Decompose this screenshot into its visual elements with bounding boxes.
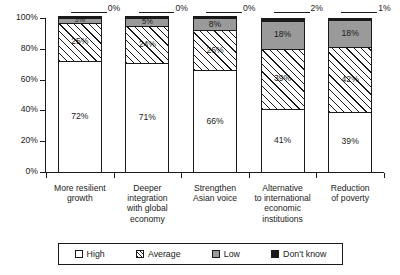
legend-item[interactable]: Average — [136, 249, 181, 259]
legend-item[interactable]: Low — [212, 249, 240, 259]
x-axis-separator-tick — [181, 173, 182, 178]
category-label-line: economic — [243, 203, 323, 213]
bar-segment-don-t-know[interactable] — [328, 18, 372, 20]
y-axis-tick-label: 20% — [0, 136, 38, 145]
bar-segment-low[interactable] — [125, 18, 169, 26]
dont-know-callout-leader-line — [206, 12, 242, 13]
bar-segment-high[interactable] — [328, 112, 372, 172]
black-square-icon — [271, 250, 279, 258]
x-axis-separator-tick — [114, 173, 115, 178]
white-square-icon — [75, 250, 83, 258]
y-axis-tick-label: 80% — [0, 44, 38, 53]
legend-item-label: High — [87, 249, 105, 259]
dont-know-callout-leader-line — [341, 12, 377, 13]
bar-segment-high[interactable] — [193, 70, 237, 172]
legend-item[interactable]: High — [75, 249, 105, 259]
y-axis-tick — [40, 49, 45, 50]
category-label-line: with global — [107, 203, 187, 213]
x-axis-separator-tick — [316, 173, 317, 178]
bar-stack: 72%25%3% — [58, 18, 102, 172]
y-axis-tick-label: 0% — [0, 167, 38, 176]
bar-stack: 41%39%18% — [261, 18, 305, 172]
bar-segment-don-t-know[interactable] — [125, 16, 169, 18]
y-axis-tick-label: 60% — [0, 75, 38, 84]
category-label: Reductionof poverty — [310, 183, 390, 203]
bar-segment-low[interactable] — [58, 18, 102, 23]
legend-item-label: Low — [224, 249, 240, 259]
bar-segment-average[interactable] — [328, 47, 372, 112]
legend-item[interactable]: Don't know — [271, 249, 326, 259]
bar-segment-high[interactable] — [58, 61, 102, 172]
bar-stack: 66%26%8% — [193, 18, 237, 172]
y-axis-tick — [40, 141, 45, 142]
y-axis-tick-label: 40% — [0, 105, 38, 114]
bar-segment-high[interactable] — [125, 63, 169, 172]
bar-segment-average[interactable] — [193, 30, 237, 70]
legend-item-label: Average — [148, 249, 181, 259]
bar-stack: 71%24%5% — [125, 18, 169, 172]
gray-square-icon — [212, 250, 220, 258]
hatched-square-icon — [136, 250, 144, 258]
bar-segment-low[interactable] — [193, 18, 237, 30]
y-axis-tick — [40, 80, 45, 81]
bar-segment-low[interactable] — [261, 21, 305, 49]
category-label-line: of poverty — [310, 193, 390, 203]
dont-know-callout-leader-line — [274, 12, 310, 13]
bar-stack: 39%42%18% — [328, 18, 372, 172]
bar-segment-don-t-know[interactable] — [58, 16, 102, 18]
bar-segment-don-t-know[interactable] — [193, 16, 237, 18]
bar-segment-average[interactable] — [261, 49, 305, 109]
stacked-bar-chart: 0%20%40%60%80%100% 72%25%3%0%71%24%5%0%6… — [0, 0, 400, 275]
y-axis-tick — [40, 110, 45, 111]
chart-legend: HighAverageLowDon't know — [58, 243, 343, 265]
category-label-line: institutions — [243, 214, 323, 224]
dont-know-callout-leader-line — [139, 12, 175, 13]
legend-item-label: Don't know — [283, 249, 326, 259]
dont-know-callout-leader-line — [71, 12, 107, 13]
dont-know-callout-label: 0% — [108, 4, 120, 13]
category-label-line: economy — [107, 214, 187, 224]
x-axis-separator-tick — [384, 173, 385, 178]
x-axis-line — [45, 172, 384, 173]
y-axis-tick — [40, 18, 45, 19]
dont-know-callout-label: 0% — [175, 4, 187, 13]
bar-segment-low[interactable] — [328, 20, 372, 48]
x-axis-separator-tick — [249, 173, 250, 178]
x-axis-separator-tick — [46, 173, 47, 178]
category-label-line: Reduction — [310, 183, 390, 193]
bar-segment-high[interactable] — [261, 109, 305, 172]
dont-know-callout-label: 2% — [311, 4, 323, 13]
dont-know-callout-label: 1% — [378, 4, 390, 13]
plot-area: 72%25%3%0%71%24%5%0%66%26%8%0%41%39%18%2… — [46, 18, 384, 172]
y-axis-tick-label: 100% — [0, 13, 38, 22]
bar-segment-average[interactable] — [125, 26, 169, 63]
bar-segment-don-t-know[interactable] — [261, 18, 305, 21]
bar-segment-average[interactable] — [58, 23, 102, 62]
dont-know-callout-label: 0% — [243, 4, 255, 13]
